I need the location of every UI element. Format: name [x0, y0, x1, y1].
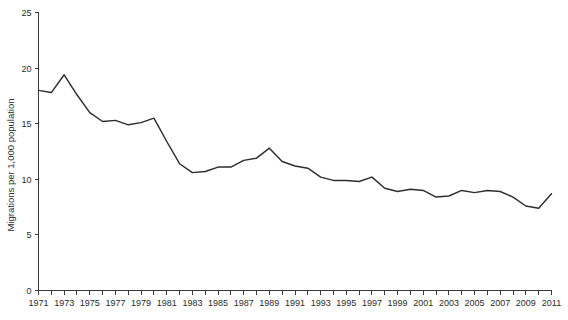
migration-rate-chart: 0510152025 19711973197519771979198119831…: [0, 0, 568, 320]
y-axis-title: Migrations per 1,000 population: [5, 98, 16, 231]
y-axis-tick-label: 5: [26, 230, 31, 240]
y-axis-tick-label: 0: [26, 286, 31, 296]
x-axis: 1971197319751977197919811983198519871989…: [28, 291, 561, 308]
x-axis-tick-label: 1995: [336, 298, 356, 308]
x-axis-tick-label: 2003: [439, 298, 459, 308]
x-axis-tick-label: 1989: [259, 298, 279, 308]
y-axis-tick-label: 20: [21, 64, 31, 74]
chart-canvas: 0510152025 19711973197519771979198119831…: [0, 0, 568, 320]
data-line-migration-rate: [39, 75, 552, 208]
x-axis-tick-label: 1981: [157, 298, 177, 308]
x-axis-tick-label: 1993: [311, 298, 331, 308]
y-axis-tick-label: 10: [21, 175, 31, 185]
y-axis-tick-label: 25: [21, 8, 31, 18]
x-axis-tick-label: 1985: [208, 298, 228, 308]
y-axis-tick-label: 15: [21, 119, 31, 129]
x-axis-tick-label: 1975: [80, 298, 100, 308]
x-axis-tick-label: 1991: [285, 298, 305, 308]
x-axis-tick-label: 2011: [542, 298, 561, 308]
x-axis-tick-label: 2007: [490, 298, 510, 308]
x-axis-tick-label: 2009: [516, 298, 536, 308]
y-axis: 0510152025: [21, 8, 38, 296]
x-axis-tick-label: 1971: [28, 298, 48, 308]
x-axis-tick-label: 1973: [54, 298, 74, 308]
x-axis-tick-label: 2001: [413, 298, 433, 308]
x-axis-tick-label: 1997: [362, 298, 382, 308]
x-axis-tick-label: 2005: [465, 298, 485, 308]
x-axis-tick-label: 1979: [131, 298, 151, 308]
x-axis-tick-label: 1987: [234, 298, 254, 308]
x-axis-tick-label: 1977: [105, 298, 125, 308]
x-axis-tick-label: 1983: [182, 298, 202, 308]
data-series-group: [39, 75, 552, 208]
x-axis-tick-label: 1999: [388, 298, 408, 308]
